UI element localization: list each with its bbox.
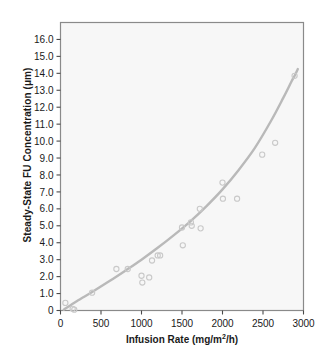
x-tick-label: 2000: [211, 318, 234, 329]
y-tick-label: 9.0: [40, 153, 54, 164]
x-tick-label: 2500: [252, 318, 275, 329]
y-tick-label: 13.0: [34, 85, 54, 96]
y-tick-label: 7.0: [40, 187, 54, 198]
scatter-plot: 01.02.03.04.05.06.07.08.09.010.011.012.0…: [0, 0, 328, 358]
x-tick-label: 500: [93, 318, 110, 329]
x-tick-label: 1000: [130, 318, 153, 329]
y-tick-label: 14.0: [34, 68, 54, 79]
y-tick-label: 0: [48, 305, 54, 316]
y-tick-label: 11.0: [35, 119, 54, 130]
y-tick-label: 16.0: [34, 34, 54, 45]
y-tick-label: 1.0: [40, 288, 54, 299]
y-tick-label: 6.0: [40, 203, 54, 214]
y-tick-label: 5.0: [40, 220, 54, 231]
x-tick-label: 0: [58, 318, 64, 329]
plot-background: [61, 23, 304, 311]
y-tick-label: 4.0: [40, 237, 54, 248]
y-tick-label: 8.0: [40, 170, 54, 181]
chart-figure: Steady-State FU Concentration (μm) Infus…: [0, 0, 328, 358]
y-tick-label: 2.0: [40, 271, 54, 282]
x-tick-label: 1500: [171, 318, 194, 329]
plot-area: 01.02.03.04.05.06.07.08.09.010.011.012.0…: [34, 23, 315, 329]
x-tick-label: 3000: [292, 318, 315, 329]
y-tick-label: 12.0: [34, 102, 54, 113]
y-tick-label: 10.0: [34, 136, 54, 147]
y-tick-label: 3.0: [40, 254, 54, 265]
y-tick-label: 15.0: [34, 51, 54, 62]
